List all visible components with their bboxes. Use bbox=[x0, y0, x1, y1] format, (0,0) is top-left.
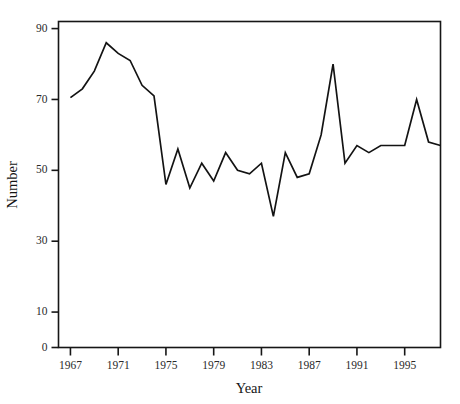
line-chart-svg: 01030507090 1967197119751979198319871991… bbox=[0, 0, 460, 404]
y-tick-label: 70 bbox=[36, 93, 48, 105]
x-tick-label: 1995 bbox=[393, 359, 416, 371]
x-tick-label: 1991 bbox=[345, 359, 368, 371]
y-tick-label: 10 bbox=[36, 305, 48, 317]
x-tick-label: 1983 bbox=[250, 359, 273, 371]
y-tick-label: 0 bbox=[42, 341, 48, 353]
y-tick-label: 50 bbox=[36, 163, 48, 175]
x-tick-label: 1967 bbox=[59, 359, 82, 371]
y-axis-title: Number bbox=[4, 161, 20, 209]
y-tick-label: 90 bbox=[36, 22, 48, 34]
x-tick-label: 1987 bbox=[298, 359, 321, 371]
x-axis-ticks: 19671971197519791983198719911995 bbox=[59, 348, 417, 371]
y-tick-label: 30 bbox=[36, 234, 48, 246]
data-series-line bbox=[70, 43, 440, 217]
x-tick-label: 1971 bbox=[107, 359, 130, 371]
x-tick-label: 1979 bbox=[202, 359, 225, 371]
plot-frame bbox=[59, 22, 441, 348]
x-tick-label: 1975 bbox=[154, 359, 177, 371]
x-axis-title: Year bbox=[236, 380, 263, 396]
y-axis-ticks: 01030507090 bbox=[36, 22, 59, 353]
chart-figure: 01030507090 1967197119751979198319871991… bbox=[0, 0, 460, 404]
